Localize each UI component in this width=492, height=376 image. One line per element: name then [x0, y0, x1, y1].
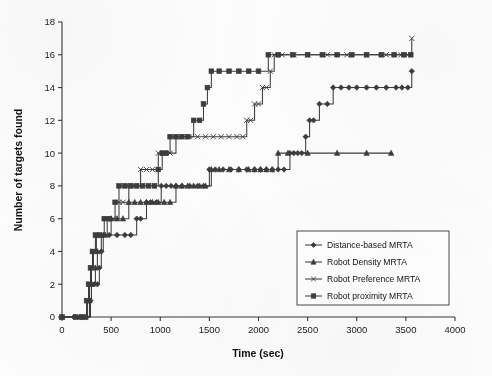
marker-square	[408, 52, 413, 57]
marker-square	[134, 184, 139, 189]
marker-square	[80, 315, 85, 320]
y-tick-label: 14	[44, 82, 55, 93]
x-tick-label: 4000	[444, 324, 465, 335]
y-tick-label: 10	[44, 148, 55, 159]
x-tick-label: 2500	[297, 324, 318, 335]
marker-square	[392, 52, 397, 57]
marker-square	[276, 52, 281, 57]
marker-diamond	[330, 85, 335, 90]
marker-square	[246, 69, 251, 74]
marker-square	[180, 134, 185, 139]
y-axis-title: Number of targets found	[12, 109, 24, 232]
marker-square	[123, 184, 128, 189]
marker-diamond	[384, 85, 389, 90]
marker-diamond	[303, 134, 308, 139]
y-tick-label: 8	[50, 180, 55, 191]
marker-square	[128, 184, 133, 189]
x-axis-title: Time (sec)	[232, 347, 284, 359]
marker-diamond	[128, 232, 133, 237]
marker-diamond	[399, 85, 404, 90]
marker-square	[84, 298, 89, 303]
marker-square	[205, 85, 210, 90]
marker-square	[117, 184, 122, 189]
marker-diamond	[405, 85, 410, 90]
y-tick-label: 12	[44, 115, 55, 126]
marker-square	[73, 315, 78, 320]
y-tick-label: 0	[50, 311, 55, 322]
marker-square	[146, 184, 151, 189]
marker-square	[102, 216, 107, 221]
marker-square	[209, 69, 214, 74]
y-tick-label: 16	[44, 49, 55, 60]
x-tick-label: 2000	[248, 324, 269, 335]
y-tick-label: 6	[50, 213, 55, 224]
x-tick-label: 0	[59, 324, 64, 335]
marker-square	[113, 200, 118, 205]
marker-diamond	[393, 85, 398, 90]
marker-square	[379, 52, 384, 57]
marker-diamond	[138, 216, 143, 221]
marker-square	[60, 315, 65, 320]
marker-square	[350, 52, 355, 57]
chart-figure: 024681012141618 050010001500200025003000…	[0, 0, 492, 376]
marker-square	[197, 118, 202, 123]
marker-diamond	[409, 68, 414, 73]
marker-square	[107, 216, 112, 221]
marker-diamond	[364, 85, 369, 90]
marker-diamond	[317, 101, 322, 106]
y-tick-label: 2	[50, 279, 55, 290]
x-tick-label: 500	[103, 324, 119, 335]
line-chart: 024681012141618 050010001500200025003000…	[0, 0, 492, 376]
marker-square	[90, 249, 95, 254]
marker-square	[402, 52, 407, 57]
marker-square	[164, 151, 169, 156]
marker-square	[305, 52, 310, 57]
marker-square	[152, 184, 157, 189]
marker-square	[311, 294, 315, 298]
chart-legend: Distance-based MRTARobot Density MRTARob…	[297, 231, 449, 305]
marker-square	[86, 282, 91, 287]
marker-diamond	[346, 85, 351, 90]
marker-square	[185, 134, 190, 139]
marker-square	[256, 69, 261, 74]
y-tick-label: 4	[50, 246, 55, 257]
marker-diamond	[281, 167, 286, 172]
x-tick-label: 3000	[346, 324, 367, 335]
x-tick-label: 1500	[199, 324, 220, 335]
x-tick-label: 1000	[150, 324, 171, 335]
marker-diamond	[338, 85, 343, 90]
marker-square	[237, 69, 242, 74]
marker-square	[266, 52, 271, 57]
marker-square	[320, 52, 325, 57]
marker-diamond	[325, 101, 330, 106]
marker-diamond	[374, 85, 379, 90]
marker-square	[364, 52, 369, 57]
legend-item-label: Robot Preference MRTA	[327, 274, 421, 284]
marker-diamond	[354, 85, 359, 90]
marker-square	[88, 266, 93, 271]
x-axis-ticks: 05001000150020002500300035004000	[59, 317, 465, 335]
legend-item-label: Robot proximity MRTA	[327, 291, 413, 301]
marker-square	[97, 233, 102, 238]
marker-square	[168, 134, 173, 139]
y-axis-ticks: 024681012141618	[44, 16, 62, 322]
legend-item-label: Distance-based MRTA	[327, 240, 413, 250]
marker-square	[156, 167, 161, 172]
marker-square	[174, 134, 179, 139]
x-tick-label: 3500	[395, 324, 416, 335]
marker-diamond	[122, 232, 127, 237]
marker-square	[291, 52, 296, 57]
marker-square	[227, 69, 232, 74]
marker-square	[140, 184, 145, 189]
marker-diamond	[114, 232, 119, 237]
marker-square	[191, 118, 196, 123]
marker-square	[335, 52, 340, 57]
y-tick-label: 18	[44, 16, 55, 27]
marker-diamond	[311, 118, 316, 123]
legend-item-label: Robot Density MRTA	[327, 257, 407, 267]
marker-square	[201, 102, 206, 107]
marker-square	[217, 69, 222, 74]
